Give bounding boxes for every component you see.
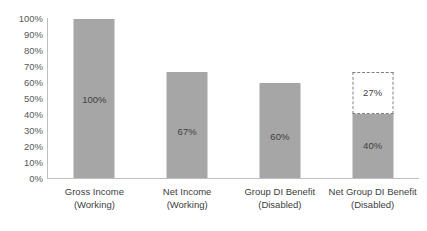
bar-group-net-income: 67% Net Income (Working) [141, 0, 234, 178]
x-category-label: Net Group DI Benefit (Disabled) [326, 186, 419, 211]
bar-chart: 100% 90% 80% 70% 60% 50% 40% 30% 20% 10%… [0, 0, 427, 231]
x-category-label: Gross Income (Working) [48, 186, 141, 211]
bar-group-gross-income: 100% Gross Income (Working) [48, 0, 141, 178]
y-tick-label: 20% [24, 142, 43, 152]
x-category-label: Net Income (Working) [141, 186, 234, 211]
gap-value-label: 27% [363, 88, 382, 98]
x-category-line: (Disabled) [234, 199, 327, 212]
bar-group-group-di-benefit: 60% Group DI Benefit (Disabled) [234, 0, 327, 178]
x-category-line: Gross Income [48, 186, 141, 199]
y-tick-label: 60% [24, 78, 43, 88]
x-category-line: Group DI Benefit [234, 186, 327, 199]
bar-value-label: 67% [178, 127, 197, 137]
y-tick-label: 40% [24, 110, 43, 120]
y-axis: 100% 90% 80% 70% 60% 50% 40% 30% 20% 10%… [0, 0, 46, 231]
x-category-line: Net Group DI Benefit [326, 186, 419, 199]
x-category-line: (Working) [48, 199, 141, 212]
plot-area: 100% Gross Income (Working) 67% Net Inco… [48, 0, 419, 231]
x-category-line: (Working) [141, 199, 234, 212]
bar-value-label: 100% [82, 95, 106, 105]
y-tick-label: 90% [24, 30, 43, 40]
y-tick-label: 0% [29, 174, 43, 184]
y-tick-label: 100% [19, 14, 43, 24]
bar [167, 72, 208, 179]
x-category-line: Net Income [141, 186, 234, 199]
bar-value-label: 60% [270, 132, 289, 142]
y-tick-label: 30% [24, 126, 43, 136]
x-category-label: Group DI Benefit (Disabled) [234, 186, 327, 211]
x-category-line: (Disabled) [326, 199, 419, 212]
y-tick-label: 50% [24, 94, 43, 104]
bar-value-label: 40% [363, 141, 382, 151]
y-tick-label: 10% [24, 158, 43, 168]
y-tick-label: 80% [24, 46, 43, 56]
y-tick-label: 70% [24, 62, 43, 72]
bar-group-net-group-di-benefit: 27% 40% Net Group DI Benefit (Disabled) [326, 0, 419, 178]
